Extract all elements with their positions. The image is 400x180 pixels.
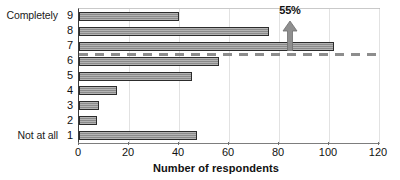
bar bbox=[79, 27, 269, 36]
x-tick-mark bbox=[328, 142, 329, 145]
bar bbox=[79, 57, 219, 66]
bar bbox=[79, 116, 97, 125]
threshold-dashed-line bbox=[79, 53, 381, 56]
gridline bbox=[379, 9, 380, 143]
y-axis-anchor-label: Completely bbox=[6, 9, 58, 21]
y-axis-tick-label: 2 bbox=[64, 114, 73, 126]
x-tick-mark bbox=[378, 142, 379, 145]
x-tick-label: 0 bbox=[75, 146, 81, 158]
y-axis-row: Completely9 bbox=[0, 8, 76, 23]
x-tick-label: 60 bbox=[222, 146, 234, 158]
bar bbox=[79, 72, 192, 81]
bar-chart: Not at all12345678Completely9 55% 020406… bbox=[0, 0, 400, 180]
bar bbox=[79, 86, 117, 95]
y-axis-row: 8 bbox=[0, 23, 76, 38]
percent-annotation-label: 55% bbox=[268, 4, 312, 16]
x-tick-label: 40 bbox=[172, 146, 184, 158]
y-axis-tick-label: 5 bbox=[64, 69, 73, 81]
x-tick-label: 20 bbox=[122, 146, 134, 158]
y-axis-row: 2 bbox=[0, 112, 76, 127]
x-tick-mark bbox=[228, 142, 229, 145]
x-tick-mark bbox=[278, 142, 279, 145]
y-axis-tick-label: 7 bbox=[64, 39, 73, 51]
plot-area bbox=[78, 8, 380, 144]
y-axis-tick-label: 4 bbox=[64, 84, 73, 96]
x-tick-label: 100 bbox=[319, 146, 337, 158]
x-tick-label: 80 bbox=[272, 146, 284, 158]
y-axis-tick-label: 3 bbox=[64, 99, 73, 111]
y-axis-row: 7 bbox=[0, 38, 76, 53]
x-tick-mark bbox=[178, 142, 179, 145]
bar-series bbox=[79, 9, 379, 143]
x-axis-title-text: Number of respondents bbox=[153, 162, 279, 174]
bar bbox=[79, 131, 197, 140]
bar bbox=[79, 12, 179, 21]
y-axis-row: 3 bbox=[0, 97, 76, 112]
y-axis-anchor-label: Not at all bbox=[18, 129, 58, 141]
y-axis: Not at all12345678Completely9 bbox=[0, 8, 76, 142]
y-axis-tick-label: 1 bbox=[64, 129, 73, 141]
y-axis-row: 6 bbox=[0, 53, 76, 68]
x-tick-mark bbox=[78, 142, 79, 145]
y-axis-row: 5 bbox=[0, 68, 76, 83]
percent-annotation: 55% bbox=[268, 4, 312, 52]
x-axis-title: Number of respondents bbox=[0, 162, 400, 174]
y-axis-tick-label: 6 bbox=[64, 54, 73, 66]
x-tick-label: 120 bbox=[369, 146, 387, 158]
y-axis-row: Not at all1 bbox=[0, 127, 76, 142]
y-axis-tick-label: 8 bbox=[64, 24, 73, 36]
y-axis-row: 4 bbox=[0, 82, 76, 97]
x-tick-mark bbox=[128, 142, 129, 145]
y-axis-tick-label: 9 bbox=[64, 9, 73, 21]
bar bbox=[79, 101, 99, 110]
arrow-up-icon bbox=[282, 21, 298, 51]
x-axis-ticks: 020406080100120 bbox=[78, 144, 380, 160]
